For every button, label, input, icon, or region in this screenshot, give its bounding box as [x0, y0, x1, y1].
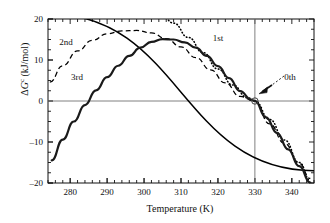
series-line-0th — [48, 14, 314, 171]
x-axis-label: Temperature (K) — [0, 203, 330, 214]
zeroth-leader — [259, 76, 284, 94]
series-line-1st — [129, 0, 310, 181]
y-axis-label-units: (kJ/mol) — [19, 43, 30, 79]
label-1st: 1st — [213, 33, 224, 43]
y-axis-label-delta: Δ — [19, 89, 30, 95]
y-tick-label: –10 — [29, 137, 44, 147]
x-tick-labels: 280290300310320330340 — [63, 187, 299, 197]
x-tick-label: 330 — [248, 187, 262, 197]
x-tick-label: 340 — [285, 187, 299, 197]
series-line-3rd — [52, 39, 311, 183]
data-series-group — [48, 0, 314, 183]
x-axis-label-text: Temperature (K) — [117, 203, 214, 214]
label-3rd: 3rd — [71, 72, 83, 82]
y-axis-label: ΔGc (kJ/mol) — [18, 9, 30, 129]
y-tick-label: 20 — [34, 14, 44, 24]
y-axis-label-symbol: G — [19, 82, 30, 89]
x-tick-label: 280 — [63, 187, 77, 197]
series-line-2nd — [50, 30, 310, 178]
y-tick-label: 0 — [39, 96, 44, 106]
x-tick-label: 300 — [137, 187, 151, 197]
label-0th: 0th — [284, 72, 296, 82]
y-tick-label: 10 — [34, 55, 44, 65]
y-axis-label-superscript: c — [18, 79, 26, 82]
y-tick-labels: –20–1001020 — [29, 14, 44, 188]
plot-area: 280290300310320330340 –20–1001020 2nd3rd… — [0, 0, 330, 223]
x-tick-label: 310 — [174, 187, 188, 197]
x-tick-label: 320 — [211, 187, 225, 197]
y-tick-label: –20 — [29, 178, 44, 188]
label-2nd: 2nd — [59, 37, 73, 47]
x-tick-label: 290 — [100, 187, 114, 197]
chart-figure: 280290300310320330340 –20–1001020 2nd3rd… — [0, 0, 330, 223]
